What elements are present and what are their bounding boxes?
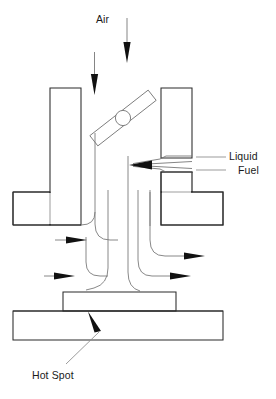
hot-spot-arrow <box>88 312 101 333</box>
manifold-base-plate <box>13 311 223 340</box>
flow-line-center-left <box>86 190 108 290</box>
throttle-shaft <box>115 110 130 125</box>
hot-spot-leader <box>66 332 99 364</box>
flow-line-inner-left <box>86 237 108 276</box>
flow-arrow-right-lower <box>160 272 191 279</box>
hot-spot-label: Hot Spot <box>32 369 74 381</box>
flow-arrow-left-lower <box>44 272 75 279</box>
flow-arrow-right-upper <box>174 252 205 259</box>
liquid-fuel-leader <box>196 157 226 170</box>
flow-arrow-left-upper <box>55 236 87 243</box>
diagram-canvas: Air Liquid Fuel Hot Spot <box>0 0 276 399</box>
left-manifold-wall <box>50 88 81 225</box>
flow-line-left-corner <box>81 212 95 225</box>
right-manifold-flange <box>161 172 223 225</box>
flow-line-inner-right <box>138 190 160 276</box>
right-manifold-wall-upper <box>161 88 192 158</box>
left-manifold-flange <box>13 192 81 225</box>
air-arrow-left <box>91 52 98 95</box>
air-label: Air <box>96 13 110 25</box>
hot-spot-block <box>63 292 176 311</box>
right-manifold-wall-lower <box>161 172 192 192</box>
carburetor-hot-spot-diagram: Air Liquid Fuel Hot Spot <box>0 0 276 399</box>
liquid-fuel-label-line2: Fuel <box>238 164 259 176</box>
flow-line-outer-left <box>95 133 118 240</box>
air-arrow-right <box>123 18 130 63</box>
liquid-fuel-label-line1: Liquid <box>229 150 258 162</box>
flow-line-outer-right <box>150 190 174 256</box>
